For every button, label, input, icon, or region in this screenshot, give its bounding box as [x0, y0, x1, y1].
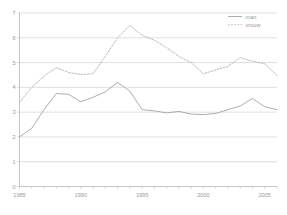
legend-label-vrouw: vrouw — [246, 22, 262, 28]
y-tick-label-1: 1 — [12, 159, 15, 165]
gridlines — [20, 13, 278, 162]
chart-legend: manvrouw — [228, 14, 261, 28]
y-tick-label-0: 0 — [12, 184, 15, 190]
x-tick-label-1985: 1985 — [13, 192, 25, 198]
y-tick-label-3: 3 — [12, 109, 15, 115]
x-tick-label-2005: 2005 — [259, 192, 271, 198]
chart-canvas: 01234567 19851990199520002005 manvrouw — [0, 0, 287, 215]
y-axis-tick-labels: 01234567 — [12, 10, 15, 190]
x-axis-tick-labels: 19851990199520002005 — [13, 192, 271, 198]
series-line-man — [20, 82, 278, 137]
legend-label-man: man — [246, 14, 257, 20]
data-series — [20, 25, 278, 137]
y-tick-label-5: 5 — [12, 60, 15, 66]
y-tick-label-2: 2 — [12, 134, 15, 140]
series-line-vrouw — [20, 25, 278, 102]
y-tick-label-6: 6 — [12, 35, 15, 41]
axes — [17, 13, 277, 187]
x-tick-label-1995: 1995 — [136, 192, 148, 198]
y-tick-label-4: 4 — [12, 84, 15, 90]
line-chart: 01234567 19851990199520002005 manvrouw — [0, 0, 287, 215]
x-tick-label-2000: 2000 — [197, 192, 209, 198]
x-tick-label-1990: 1990 — [75, 192, 87, 198]
y-tick-label-7: 7 — [12, 10, 15, 16]
